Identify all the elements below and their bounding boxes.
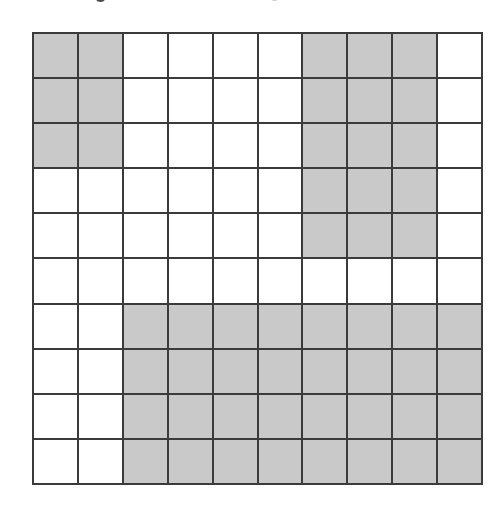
grid-cell <box>34 169 79 214</box>
grid-cell <box>79 34 124 79</box>
grid-cell <box>259 34 304 79</box>
grid-cell <box>438 34 483 79</box>
grid-cell <box>303 259 348 304</box>
grid-cell <box>214 124 259 169</box>
grid-cell <box>169 214 214 259</box>
grid-container <box>32 32 483 485</box>
grid-cell <box>393 169 438 214</box>
grid-cell <box>169 305 214 350</box>
grid-cell <box>34 214 79 259</box>
grid-cell <box>169 395 214 440</box>
grid-cell <box>303 34 348 79</box>
grid-cell <box>79 169 124 214</box>
grid-cell <box>348 34 393 79</box>
grid-cell <box>124 214 169 259</box>
grid-cell <box>124 79 169 124</box>
grid-cell <box>348 169 393 214</box>
grid-cell <box>259 124 304 169</box>
grid-cell <box>34 79 79 124</box>
grid-cell <box>124 395 169 440</box>
grid-cell <box>124 169 169 214</box>
grid-cell <box>169 259 214 304</box>
grid-cell <box>124 34 169 79</box>
grid-cell <box>438 440 483 485</box>
grid-cell <box>79 79 124 124</box>
grid-cell <box>303 440 348 485</box>
grid-cell <box>438 214 483 259</box>
grid-cell <box>393 440 438 485</box>
grid-cell <box>79 124 124 169</box>
grid-cell <box>214 440 259 485</box>
grid-cell <box>34 305 79 350</box>
grid-cell <box>348 124 393 169</box>
grid-cell <box>169 34 214 79</box>
grid-cell <box>438 305 483 350</box>
grid-cell <box>393 395 438 440</box>
grid-cell <box>438 395 483 440</box>
grid-cell <box>393 259 438 304</box>
grid-cell <box>259 440 304 485</box>
grid-cell <box>79 395 124 440</box>
grid-cell <box>259 169 304 214</box>
grid-cell <box>438 350 483 395</box>
grid-cell <box>124 259 169 304</box>
grid-cell <box>393 214 438 259</box>
grid-cell <box>79 259 124 304</box>
grid-cell <box>259 259 304 304</box>
grid-cell <box>169 350 214 395</box>
grid-cell <box>124 350 169 395</box>
grid-cell <box>303 214 348 259</box>
grid-cell <box>438 259 483 304</box>
scan-artifact-layer <box>0 0 501 14</box>
grid-cell <box>438 169 483 214</box>
grid-cell <box>34 350 79 395</box>
grid-cell <box>348 305 393 350</box>
grid-cell <box>259 79 304 124</box>
grid-cell <box>34 259 79 304</box>
grid-cell <box>169 79 214 124</box>
grid-cell <box>214 395 259 440</box>
grid-cell <box>348 395 393 440</box>
grid-cell <box>214 350 259 395</box>
grid-cell <box>393 34 438 79</box>
grid-cell <box>214 169 259 214</box>
grid-cell <box>34 124 79 169</box>
grid-cell <box>79 214 124 259</box>
grid-cell <box>303 124 348 169</box>
scan-speck-icon <box>271 0 278 1</box>
grid-cell <box>214 34 259 79</box>
grid-cell <box>169 169 214 214</box>
grid-cell <box>259 305 304 350</box>
grid-cell <box>259 395 304 440</box>
scan-speck-icon <box>96 0 105 2</box>
grid-cell <box>214 259 259 304</box>
grid-cell <box>169 440 214 485</box>
grid-cell <box>438 124 483 169</box>
grid-cell <box>34 34 79 79</box>
grid-cell <box>348 350 393 395</box>
grid-cell <box>393 124 438 169</box>
grid-cell <box>124 440 169 485</box>
grid-cell <box>124 124 169 169</box>
grid-cell <box>214 79 259 124</box>
grid-cell <box>259 214 304 259</box>
grid-cell <box>169 124 214 169</box>
grid-cell <box>214 305 259 350</box>
grid-cell <box>303 79 348 124</box>
grid-cell <box>124 305 169 350</box>
grid-cell <box>393 350 438 395</box>
grid-cell <box>79 350 124 395</box>
grid-cell <box>303 305 348 350</box>
grid-cell <box>303 395 348 440</box>
grid-cell <box>438 79 483 124</box>
grid-cell <box>34 440 79 485</box>
grid-cell <box>214 214 259 259</box>
grid-cell <box>79 440 124 485</box>
grid-cell <box>348 79 393 124</box>
grid-cell <box>79 305 124 350</box>
grid-cell <box>34 395 79 440</box>
grid-cell <box>348 440 393 485</box>
grid-cell <box>393 79 438 124</box>
grid-cell <box>348 214 393 259</box>
grid-cell <box>303 350 348 395</box>
